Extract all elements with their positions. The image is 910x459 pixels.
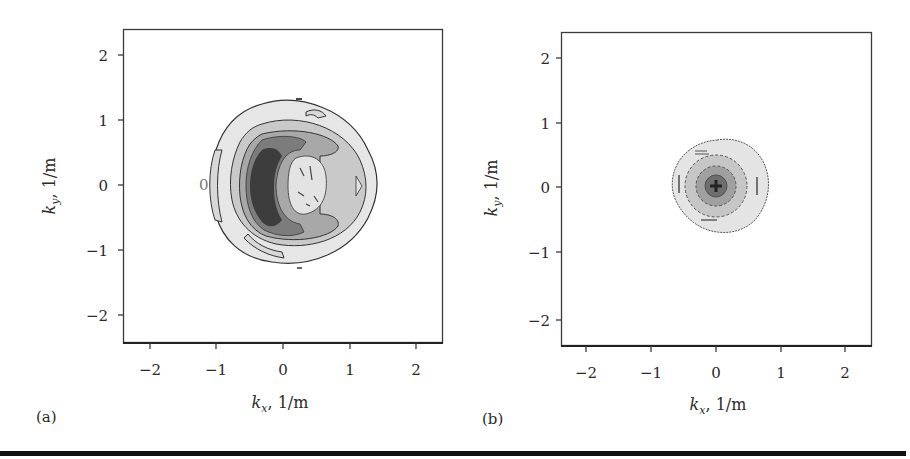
contour-plot-a: 0 2 1 0 −1 −2 −2 −1 0 1 2 kx, 1/	[0, 0, 455, 440]
x-tick-label: 1	[345, 361, 355, 379]
x-axis-label-a: kx, 1/m	[252, 393, 309, 415]
x-axis-label-b: kx, 1/m	[690, 395, 747, 417]
y-tick-label: 1	[540, 115, 550, 133]
y-tick-label: 1	[98, 112, 108, 130]
y-tick-label: 0	[540, 179, 550, 197]
x-tick-label: −1	[205, 361, 227, 379]
x-tick-label: −1	[640, 364, 662, 382]
y-tick-label: −2	[528, 312, 550, 330]
contour-field-b	[672, 139, 768, 232]
chart-panel-b: 2 1 0 −1 −2 −2 −1 0 1 2 kx, 1/m ky, 1/m …	[455, 0, 910, 440]
y-axis-b	[556, 58, 561, 320]
x-tick-label: −2	[575, 364, 597, 382]
x-tick-label: −2	[139, 361, 161, 379]
y-tick-label: 2	[98, 47, 108, 65]
x-tick-label: 1	[776, 364, 786, 382]
x-tick-label: 0	[278, 361, 288, 379]
contour-field-a	[210, 98, 377, 269]
contour-label-zero: 0	[199, 176, 209, 194]
y-tick-label: −1	[86, 242, 108, 260]
y-tick-label: 2	[540, 50, 550, 68]
x-tick-label: 0	[711, 364, 721, 382]
y-tick-label: 0	[98, 177, 108, 195]
y-tick-label: −1	[528, 244, 550, 262]
y-axis-label-a: ky, 1/m	[40, 158, 62, 215]
y-axis-label-b: ky, 1/m	[482, 160, 504, 217]
y-tick-label: −2	[86, 307, 108, 325]
contour-plot-b: 2 1 0 −1 −2 −2 −1 0 1 2 kx, 1/m ky, 1/m	[455, 0, 910, 440]
x-tick-label: 2	[411, 361, 421, 379]
y-axis-a	[118, 55, 123, 315]
x-tick-label: 2	[840, 364, 850, 382]
panel-label-a: (a)	[36, 408, 57, 426]
chart-panel-a: 0 2 1 0 −1 −2 −2 −1 0 1 2 kx, 1/	[0, 0, 455, 440]
panel-label-b: (b)	[482, 410, 503, 428]
figure-bottom-rule	[0, 451, 906, 456]
